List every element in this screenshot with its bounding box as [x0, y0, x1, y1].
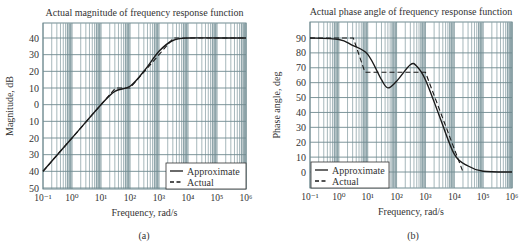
- x-axis-label: Frequency, rad/s: [378, 206, 444, 217]
- x-tick-label: 10⁻¹: [301, 192, 319, 202]
- y-tick-label: 80: [296, 47, 306, 58]
- x-tick-label: 10¹: [95, 193, 108, 203]
- phase-chart: 908070605040302010010⁻¹10⁰10¹10²10³10⁴10…: [271, 6, 518, 217]
- x-tick-label: 10²: [124, 193, 137, 203]
- legend-label: Approximate: [332, 165, 385, 176]
- y-tick-label: 10: [296, 152, 306, 163]
- x-tick-label: 10⁴: [182, 193, 196, 203]
- y-tick-label: 40: [296, 107, 306, 118]
- y-tick-label: 30: [29, 149, 39, 160]
- y-tick-label: 20: [29, 66, 39, 77]
- y-tick-label: 10: [29, 116, 39, 127]
- y-axis-label: Magnitude, dB: [4, 76, 15, 136]
- y-tick-label: 10: [29, 83, 39, 94]
- y-tick-label: 50: [296, 92, 306, 103]
- legend-label: Actual: [187, 177, 214, 188]
- legend-label: Actual: [332, 176, 359, 187]
- x-tick-label: 10⁶: [506, 192, 519, 202]
- x-tick-label: 10¹: [362, 192, 375, 202]
- x-tick-label: 10⁵: [211, 193, 224, 203]
- x-axis-label: Frequency, rad/s: [112, 207, 178, 218]
- x-tick-label: 10⁵: [477, 192, 490, 202]
- y-tick-label: 40: [29, 33, 39, 44]
- y-tick-label: 30: [29, 49, 39, 60]
- chart-title: Actual magnitude of frequency response f…: [46, 7, 244, 18]
- x-tick-label: 10⁰: [65, 193, 79, 203]
- caption-b: (b): [407, 230, 419, 242]
- x-tick-label: 10⁰: [332, 192, 346, 202]
- y-tick-label: 30: [296, 122, 306, 133]
- y-tick-label: 0: [301, 167, 306, 178]
- x-tick-label: 10⁻¹: [34, 193, 52, 203]
- y-tick-label: 0: [34, 99, 39, 110]
- x-tick-label: 10⁶: [240, 193, 253, 203]
- x-tick-label: 10³: [419, 192, 432, 202]
- x-tick-label: 10²: [390, 192, 403, 202]
- y-tick-label: 70: [296, 62, 306, 73]
- y-tick-label: 60: [296, 77, 306, 88]
- figure: 403020100102030405010⁻¹10⁰10¹10²10³10⁴10…: [0, 0, 523, 248]
- legend: ApproximateActual: [166, 163, 246, 189]
- x-tick-label: 10³: [153, 193, 166, 203]
- x-tick-label: 10⁴: [448, 192, 462, 202]
- y-tick-label: 20: [296, 137, 306, 148]
- y-tick-label: 50: [29, 183, 39, 194]
- y-tick-label: 20: [29, 133, 39, 144]
- legend-label: Approximate: [187, 166, 240, 177]
- y-axis-label: Phase angle, deg: [271, 72, 282, 139]
- chart-title: Actual phase angle of frequency response…: [310, 6, 513, 17]
- caption-a: (a): [138, 230, 149, 242]
- legend: ApproximateActual: [311, 162, 389, 188]
- magnitude-chart: 403020100102030405010⁻¹10⁰10¹10²10³10⁴10…: [4, 7, 252, 218]
- y-tick-label: 90: [296, 33, 306, 44]
- y-tick-label: 40: [29, 166, 39, 177]
